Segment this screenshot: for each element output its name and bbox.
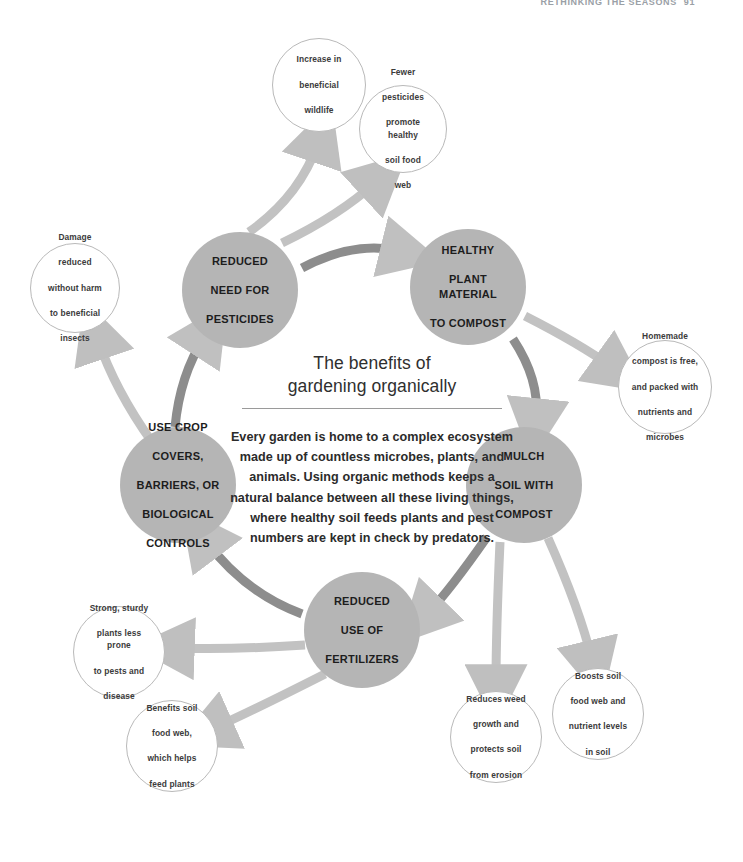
hub-healthy-plant-material-to-compost[interactable]: HEALTHY PLANT MATERIAL TO COMPOST <box>410 229 526 345</box>
satellite-label-line: pesticides <box>366 91 440 104</box>
satellite-label-line: to beneficial <box>42 307 108 320</box>
satellite-label-line: beneficial <box>291 79 348 92</box>
satellite-label-line: food web and <box>563 695 633 708</box>
hub-label-line: PLANT MATERIAL <box>418 272 518 301</box>
hub-reduced-need-for-pesticides[interactable]: REDUCED NEED FOR PESTICIDES <box>182 232 298 348</box>
hub-label-line: HEALTHY <box>418 243 518 258</box>
satellite-label-line: which helps <box>140 752 203 765</box>
arrow-crop-covers-to-pesticides <box>175 338 204 427</box>
center-title-line-1: The benefits of <box>313 353 430 373</box>
organic-gardening-benefits-diagram: REDUCED NEED FOR PESTICIDES HEALTHY PLAN… <box>0 0 743 862</box>
satellite-label-line: Benefits soil <box>140 702 203 715</box>
spoke-to-homemade-compost-is-free <box>525 316 612 367</box>
satellite-label-line: insects <box>42 332 108 345</box>
spoke-to-increase-in-beneficial-wildlife <box>249 143 318 232</box>
hub-label-line: BARRIERS, OR <box>128 478 227 493</box>
satellite-reduces-weed-growth-and-protects-soil-from-erosion[interactable]: Reduces weed growth and protects soil fr… <box>450 691 542 783</box>
satellite-label-line: promote healthy <box>366 116 440 141</box>
center-title: The benefits of gardening organically <box>228 352 516 398</box>
satellite-label-line: food web, <box>140 727 203 740</box>
satellite-label-line: Increase in <box>291 53 348 66</box>
satellite-label-line: disease <box>80 690 158 703</box>
hub-label-line: NEED FOR <box>198 283 282 298</box>
spoke-to-benefits-soil-food-web-which-helps-feed-plants <box>214 674 325 728</box>
satellite-label-line: without harm <box>42 282 108 295</box>
satellite-label-line: nutrients and <box>626 406 705 419</box>
spoke-to-boosts-soil-food-web-and-nutrient-levels-in-soil <box>548 538 592 660</box>
satellite-label-line: Homemade <box>626 330 705 343</box>
satellite-label-line: wildlife <box>291 104 348 117</box>
hub-label-line: REDUCED <box>317 594 407 609</box>
arrow-compost-to-mulch <box>513 339 537 418</box>
satellite-label-line: from erosion <box>460 769 531 782</box>
satellite-fewer-pesticides-promote-healthy-soil-food-web[interactable]: Fewer pesticides promote healthy soil fo… <box>359 85 447 173</box>
satellite-label-line: microbes <box>626 431 705 444</box>
satellite-label-line: to pests and <box>80 665 158 678</box>
center-body-text: Every garden is home to a complex ecosys… <box>228 427 516 549</box>
satellite-label-line: reduced <box>42 256 108 269</box>
arrow-pesticides-to-compost <box>302 248 400 268</box>
satellite-label-line: compost is free, <box>626 355 705 368</box>
satellite-benefits-soil-food-web-which-helps-feed-plants[interactable]: Benefits soil food web, which helps feed… <box>126 700 218 792</box>
hub-reduced-use-of-fertilizers[interactable]: REDUCED USE OF FERTILIZERS <box>304 572 420 688</box>
spoke-to-reduces-weed-growth-and-protects-soil-from-erosion <box>496 542 500 684</box>
satellite-label-line: Boosts soil <box>563 670 633 683</box>
hub-label-line: REDUCED <box>198 254 282 269</box>
hub-label-line: FERTILIZERS <box>317 652 407 667</box>
center-divider <box>242 408 502 409</box>
satellite-label-line: nutrient levels <box>563 720 633 733</box>
hub-label-line: USE OF <box>317 623 407 638</box>
satellite-label-line: Reduces weed <box>460 693 531 706</box>
hub-label-line: COVERS, <box>128 449 227 464</box>
center-text-panel: The benefits of gardening organically Ev… <box>228 352 516 549</box>
satellite-damage-reduced-without-harm-to-beneficial-insects[interactable]: Damage reduced without harm to beneficia… <box>30 243 120 333</box>
satellite-label-line: soil food <box>366 154 440 167</box>
hub-label-line: BIOLOGICAL <box>128 507 227 522</box>
arrow-fertilizers-to-crop-covers <box>206 541 302 614</box>
satellite-homemade-compost-is-free[interactable]: Homemade compost is free, and packed wit… <box>618 340 712 434</box>
hub-label-line: USE CROP <box>128 420 227 435</box>
satellite-label-line: and packed with <box>626 381 705 394</box>
center-title-line-2: gardening organically <box>288 376 456 396</box>
satellite-increase-in-beneficial-wildlife[interactable]: Increase in beneficial wildlife <box>272 38 366 132</box>
satellite-label-line: feed plants <box>140 778 203 791</box>
satellite-strong-sturdy-plants-less-prone-to-pests-and-disease[interactable]: Strong, sturdy plants less prone to pest… <box>73 606 165 698</box>
hub-label-line: TO COMPOST <box>418 316 518 331</box>
satellite-boosts-soil-food-web-and-nutrient-levels-in-soil[interactable]: Boosts soil food web and nutrient levels… <box>552 668 644 760</box>
satellite-label-line: web <box>366 179 440 192</box>
hub-use-crop-covers-barriers-or-biological-controls[interactable]: USE CROP COVERS, BARRIERS, OR BIOLOGICAL… <box>120 427 236 543</box>
satellite-label-line: in soil <box>563 746 633 759</box>
satellite-label-line: protects soil <box>460 743 531 756</box>
satellite-label-line: growth and <box>460 718 531 731</box>
hub-label-line: CONTROLS <box>128 536 227 551</box>
satellite-label-line: Fewer <box>366 66 440 79</box>
satellite-label-line: Damage <box>42 231 108 244</box>
satellite-label-line: plants less prone <box>80 627 158 652</box>
satellite-label-line: Strong, sturdy <box>80 602 158 615</box>
spoke-to-strong-sturdy-plants-less-prone-to-pests-and-disease <box>175 645 305 649</box>
hub-label-line: PESTICIDES <box>198 312 282 327</box>
